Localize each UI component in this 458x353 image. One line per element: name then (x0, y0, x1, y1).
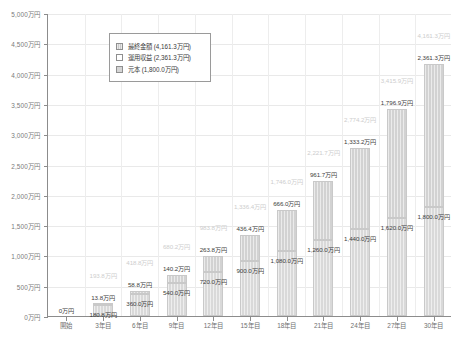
bar-label-profit: 961.7万円 (310, 170, 337, 179)
y-axis-tick (44, 44, 48, 45)
y-axis-label: 500万円 (17, 282, 40, 291)
legend-swatch-principal-icon (116, 66, 123, 73)
y-axis-label: 3,500万円 (11, 100, 40, 109)
bar-column[interactable] (387, 109, 407, 316)
bar-label-principal: 360.0万円 (126, 299, 153, 308)
bar-label-profit: 140.2万円 (163, 263, 190, 272)
bar-segment-profit[interactable] (203, 256, 223, 272)
bar-label-total: 3,415.9万円 (381, 75, 413, 84)
bar-label-profit: 1,333.2万円 (344, 136, 376, 145)
bar-segment-profit[interactable] (424, 64, 444, 207)
bar-segment-profit[interactable] (387, 109, 407, 218)
savings-growth-chart: 0万円180.8万円13.8万円193.8万円360.0万円58.8万円418.… (0, 0, 458, 353)
bar-label-principal: 0万円 (59, 306, 74, 315)
bar-column[interactable] (350, 148, 370, 316)
y-axis-label: 1,500万円 (11, 222, 40, 231)
bar-label-principal: 540.0万円 (163, 288, 190, 297)
y-axis-label: 2,000万円 (11, 191, 40, 200)
y-axis-label: 0万円 (24, 313, 40, 322)
bar-segment-principal[interactable] (424, 207, 444, 316)
y-axis-label: 5,000万円 (11, 10, 40, 19)
bar-segment-profit[interactable] (313, 181, 333, 239)
bar-label-profit: 436.4万円 (236, 224, 263, 233)
x-axis-label: 6年目 (132, 321, 148, 330)
bar-label-total: 4,161.3万円 (418, 30, 450, 39)
bar-label-total: 1,746.0万円 (271, 177, 303, 186)
y-axis-tick (44, 196, 48, 197)
bar-column[interactable] (424, 64, 444, 316)
bar-column[interactable] (240, 235, 260, 316)
bar-label-profit: 263.8万円 (200, 245, 227, 254)
x-axis-label: 開始 (60, 321, 72, 330)
plot-area: 0万円180.8万円13.8万円193.8万円360.0万円58.8万円418.… (47, 14, 451, 317)
x-axis-label: 9年目 (169, 321, 185, 330)
y-axis-tick (44, 226, 48, 227)
x-axis-label: 3年目 (95, 321, 111, 330)
bar-label-total: 2,774.2万円 (344, 114, 376, 123)
bar-label-profit: 13.8万円 (91, 293, 115, 302)
y-axis-tick (44, 14, 48, 15)
legend-item-profit[interactable]: 運用収益 (2,361.3万円) (116, 53, 204, 62)
bar-label-profit: 2,361.3万円 (418, 52, 450, 61)
bar-segment-profit[interactable] (277, 210, 297, 250)
bar-label-total: 193.8万円 (90, 271, 117, 280)
x-axis-label: 27年目 (387, 321, 406, 330)
bar-label-total: 418.8万円 (126, 257, 153, 266)
chart-legend: 最終金額 (4,161.3万円) 運用収益 (2,361.3万円) 元本 (1,… (109, 33, 211, 82)
x-axis-label: 18年目 (277, 321, 296, 330)
x-axis-label: 15年目 (240, 321, 259, 330)
gridline-vertical (415, 14, 416, 316)
y-axis-tick (44, 75, 48, 76)
legend-item-principal[interactable]: 元本 (1,800.0万円) (116, 65, 204, 74)
y-axis-tick (44, 135, 48, 136)
y-axis-label: 4,000万円 (11, 70, 40, 79)
y-axis-label: 3,000万円 (11, 131, 40, 140)
gridline-horizontal (48, 14, 451, 15)
bar-label-principal: 1,260.0万円 (307, 244, 339, 253)
bar-segment-profit[interactable] (93, 303, 113, 305)
y-axis-label: 2,500万円 (11, 161, 40, 170)
bar-label-profit: 1,796.9万円 (381, 97, 413, 106)
bar-segment-principal[interactable] (387, 218, 407, 316)
bar-column[interactable] (203, 256, 223, 316)
x-axis-label: 24年目 (351, 321, 370, 330)
bar-label-principal: 1,800.0万円 (418, 211, 450, 220)
bar-label-principal: 1,440.0万円 (344, 233, 376, 242)
legend-swatch-profit-icon (116, 54, 123, 61)
legend-swatch-total-icon (116, 43, 123, 50)
y-axis-tick (44, 317, 48, 318)
x-axis-label: 30年目 (424, 321, 443, 330)
bar-label-principal: 900.0万円 (236, 266, 263, 275)
bar-segment-profit[interactable] (350, 148, 370, 229)
bar-segment-profit[interactable] (130, 291, 150, 295)
y-axis-tick (44, 105, 48, 106)
legend-label-principal: 元本 (1,800.0万円) (128, 65, 179, 74)
y-axis-tick (44, 287, 48, 288)
gridline-vertical (379, 14, 380, 316)
y-axis-tick (44, 166, 48, 167)
bar-label-profit: 58.8万円 (128, 279, 152, 288)
bar-label-total: 1,336.4万円 (234, 202, 266, 211)
y-axis-tick (44, 256, 48, 257)
bar-label-principal: 1,080.0万円 (271, 255, 303, 264)
gridline-vertical (305, 14, 306, 316)
legend-item-total[interactable]: 最終金額 (4,161.3万円) (116, 42, 204, 51)
y-axis-label: 1,000万円 (11, 252, 40, 261)
legend-label-profit: 運用収益 (2,361.3万円) (128, 53, 191, 62)
gridline-vertical (342, 14, 343, 316)
bar-label-principal: 1,620.0万円 (381, 222, 413, 231)
x-axis-label: 21年目 (314, 321, 333, 330)
bar-label-total: 680.2万円 (163, 241, 190, 250)
legend-label-total: 最終金額 (4,161.3万円) (128, 42, 191, 51)
gridline-vertical (232, 14, 233, 316)
bar-segment-profit[interactable] (240, 235, 260, 261)
bar-segment-profit[interactable] (167, 275, 187, 283)
bar-label-principal: 720.0万円 (200, 277, 227, 286)
x-axis-label: 12年目 (204, 321, 223, 330)
gridline-vertical (85, 14, 86, 316)
bar-label-total: 2,221.7万円 (307, 148, 339, 157)
gridline-vertical (268, 14, 269, 316)
y-axis-label: 4,500万円 (11, 40, 40, 49)
bar-label-profit: 666.0万円 (273, 199, 300, 208)
bar-label-total: 983.8万円 (200, 223, 227, 232)
